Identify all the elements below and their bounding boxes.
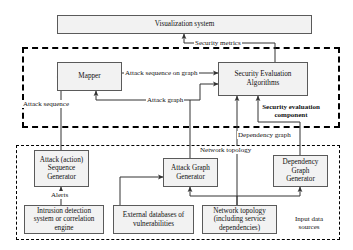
diagram-canvas: Visualization system Mapper Security Eva…	[0, 0, 353, 250]
node-visualization-system-label: Visualization system	[155, 20, 215, 29]
node-security-evaluation-algorithms[interactable]: Security Evaluation Algorithms	[218, 62, 308, 96]
node-ids-correlation-engine-label: Intrusion detection system or correlatio…	[34, 207, 95, 233]
node-visualization-system[interactable]: Visualization system	[57, 15, 312, 34]
node-dependency-graph-generator-label: Dependency Graph Generator	[283, 158, 319, 184]
node-attack-graph-generator-label: Attack Graph Generator	[171, 164, 210, 181]
edge-label-attack-graph: Attack graph	[146, 96, 184, 104]
edge-label-alerts: Alerts	[50, 191, 69, 199]
edge-label-dependency-graph: Dependency graph	[237, 131, 292, 139]
node-security-evaluation-algorithms-label: Security Evaluation Algorithms	[235, 70, 292, 87]
edge-label-network-topology: Network topology	[199, 146, 252, 154]
node-external-vulnerability-db[interactable]: External databases of vulnerabilities	[113, 205, 194, 234]
node-dependency-graph-generator[interactable]: Dependency Graph Generator	[273, 155, 328, 187]
node-network-topology-source[interactable]: Network topology (including service depe…	[202, 205, 277, 234]
node-mapper[interactable]: Mapper	[57, 62, 122, 91]
node-external-vulnerability-db-label: External databases of vulnerabilities	[123, 211, 184, 228]
node-mapper-label: Mapper	[78, 72, 100, 81]
node-ids-correlation-engine[interactable]: Intrusion detection system or correlatio…	[24, 205, 104, 234]
node-attack-graph-generator[interactable]: Attack Graph Generator	[163, 158, 218, 187]
node-network-topology-source-label: Network topology (including service depe…	[213, 207, 266, 233]
zone-label-security-evaluation-component: Security evaluation component	[250, 103, 332, 119]
edge-label-attack-sequence: Attack sequence	[22, 100, 70, 108]
edge-label-security-metrics: Security metrics	[194, 39, 242, 47]
node-attack-sequence-generator-label: Attack (action) Sequence Generator	[40, 156, 83, 182]
zone-label-input-data-sources: Input data sources	[284, 215, 334, 231]
node-attack-sequence-generator[interactable]: Attack (action) Sequence Generator	[34, 150, 89, 187]
edge-label-attack-sequence-on-graph: Attack sequence on graph	[124, 69, 199, 77]
